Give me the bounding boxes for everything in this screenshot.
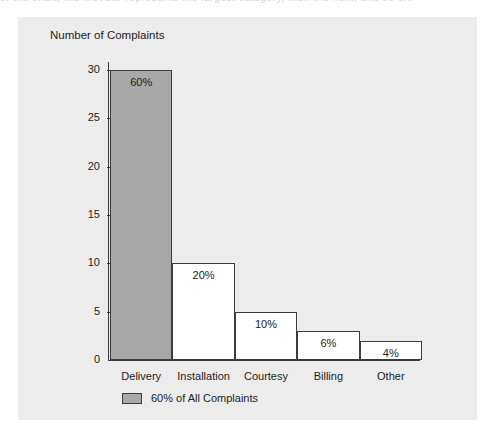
y-tick-15: 15 <box>64 215 114 216</box>
y-axis-line <box>108 62 109 360</box>
y-tick-label: 0 <box>94 353 100 365</box>
y-tick-label: 30 <box>88 63 100 75</box>
y-tick-label: 15 <box>88 208 100 220</box>
bar-other: 4% <box>360 341 422 360</box>
page-bleed-text: of the chart, the first bar represents t… <box>0 0 495 3</box>
bar-value-label: 20% <box>173 269 233 281</box>
x-axis-line <box>108 360 420 361</box>
y-tick-10: 10 <box>64 263 114 264</box>
category-label-installation: Installation <box>172 370 234 382</box>
bar-value-label: 60% <box>111 76 171 88</box>
category-label-courtesy: Courtesy <box>235 370 297 382</box>
y-tick-25: 25 <box>64 118 114 119</box>
bar-courtesy: 10% <box>235 312 297 360</box>
legend-label-highlight: 60% of All Complaints <box>151 392 258 404</box>
category-label-billing: Billing <box>297 370 359 382</box>
chart-legend: 60% of All Complaints <box>122 392 258 404</box>
chart-panel: Number of Complaints 051015202530 60%20%… <box>18 17 477 420</box>
bar-value-label: 10% <box>236 318 296 330</box>
y-tick-20: 20 <box>64 167 114 168</box>
y-tick-30: 30 <box>64 70 114 71</box>
y-tick-label: 10 <box>88 256 100 268</box>
y-tick-0: 0 <box>64 360 114 361</box>
category-label-delivery: Delivery <box>110 370 172 382</box>
legend-swatch-highlight <box>122 393 142 404</box>
y-tick-label: 20 <box>88 160 100 172</box>
category-label-other: Other <box>360 370 422 382</box>
bar-value-label: 6% <box>298 337 358 349</box>
chart-title: Number of Complaints <box>50 29 164 41</box>
bar-installation: 20% <box>172 263 234 360</box>
y-tick-label: 5 <box>94 305 100 317</box>
y-tick-5: 5 <box>64 312 114 313</box>
bar-delivery: 60% <box>110 70 172 360</box>
y-tick-label: 25 <box>88 111 100 123</box>
bar-value-label: 4% <box>361 347 421 359</box>
plot-area: 051015202530 60%20%10%6%4% DeliveryInsta… <box>108 70 420 360</box>
bar-billing: 6% <box>297 331 359 360</box>
